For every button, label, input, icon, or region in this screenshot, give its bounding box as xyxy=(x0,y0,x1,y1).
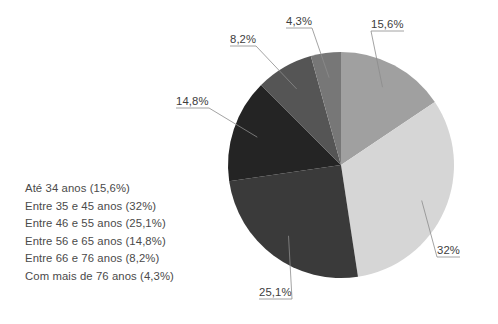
legend-item: Entre 46 e 55 anos (25,1%) xyxy=(25,215,215,233)
slice-value-label: 25,1% xyxy=(259,286,292,298)
legend-item: Com mais de 76 anos (4,3%) xyxy=(25,268,215,286)
pie-slices-group xyxy=(228,52,454,278)
legend-item: Entre 35 e 45 anos (32%) xyxy=(25,198,215,216)
slice-value-label: 14,8% xyxy=(176,95,209,107)
slice-value-label: 32% xyxy=(437,244,460,256)
slice-value-label: 4,3% xyxy=(286,15,312,27)
slice-value-label: 8,2% xyxy=(230,33,256,45)
legend-item: Entre 56 e 65 anos (14,8%) xyxy=(25,233,215,251)
legend-item: Até 34 anos (15,6%) xyxy=(25,180,215,198)
slice-value-label: 15,6% xyxy=(371,18,404,30)
pie-slice xyxy=(229,165,358,278)
legend-item: Entre 66 e 76 anos (8,2%) xyxy=(25,250,215,268)
pie-chart-figure: Até 34 anos (15,6%) Entre 35 e 45 anos (… xyxy=(0,0,498,324)
legend: Até 34 anos (15,6%) Entre 35 e 45 anos (… xyxy=(25,180,215,285)
